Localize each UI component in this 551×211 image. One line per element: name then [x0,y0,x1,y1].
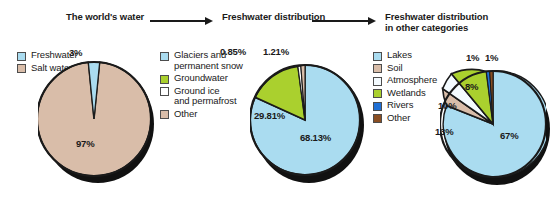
chart-title-worlds-water: The world's water [66,11,144,22]
pie-value-wetlands: 8% [465,81,478,92]
chart-title-freshwater-distribution: Freshwater distribution [222,11,325,22]
legend-item-lakes: Lakes [373,50,437,61]
pie-chart-other-categories: 1% 1% 8% 10% 13% 67% [440,68,546,180]
pie-value-glaciers: 68.13% [300,132,331,143]
pie-value-other: 1% [485,52,498,63]
legend-item-other: Other [373,113,437,124]
legend-swatch-lakes [373,52,382,61]
arrow-head [205,17,213,25]
legend-swatch-other [373,114,382,123]
pie-slices-worlds-water [38,60,150,178]
panel-freshwater-distribution: Glaciers and permanent snow Groundwater … [155,40,355,211]
legend-label-rivers: Rivers [387,100,413,111]
panel-freshwater-other-categories: Lakes Soil Atmosphere Wetlands Rivers Ot… [360,40,551,211]
legend-swatch-glaciers [160,52,169,61]
legend-item-ground-ice: Ground ice and permafrost [160,86,243,107]
pie-value-groundwater: 29.81% [254,110,285,121]
legend-swatch-wetlands [373,89,382,98]
legend-swatch-other [160,110,169,119]
arrow-shaft [312,20,370,22]
pie-value-rivers: 1% [466,52,479,63]
legend-swatch-groundwater [160,75,169,84]
legend-swatch-soil [373,64,382,73]
legend-label-other: Other [174,109,197,120]
legend-other-categories: Lakes Soil Atmosphere Wetlands Rivers Ot… [373,50,437,125]
legend-item-atmosphere: Atmosphere [373,75,437,86]
legend-swatch-ground-ice [160,87,169,96]
pie-value-salt-water: 97% [76,138,94,149]
legend-label-groundwater: Groundwater [174,73,228,84]
legend-label-ground-ice: Ground ice and permafrost [174,86,237,107]
pie-slices-other-categories [440,68,546,180]
pie-value-freshwater: 3% [69,47,82,58]
legend-item-groundwater: Groundwater [160,73,243,84]
pie-chart-worlds-water: 3% 97% [38,60,150,178]
figure-root: The world's water Freshwater distributio… [0,0,551,211]
legend-label-atmosphere: Atmosphere [387,75,437,86]
arrow-head [368,17,376,25]
legend-item-soil: Soil [373,63,437,74]
legend-item-other: Other [160,109,243,120]
pie-value-lakes: 67% [500,130,518,141]
flow-arrow-2 [312,16,378,25]
titles-and-arrows: The world's water Freshwater distributio… [0,0,551,40]
pie-value-atmosphere: 10% [438,100,456,111]
legend-item-wetlands: Wetlands [373,88,437,99]
legend-label-lakes: Lakes [387,50,412,61]
panel-worlds-water: Freshwater Salt water 3% 97% [0,40,160,211]
legend-swatch-rivers [373,102,382,111]
chart-title-freshwater-other-categories: Freshwater distribution in other categor… [385,11,488,33]
flow-arrow-1 [150,16,215,25]
legend-swatch-salt-water [17,64,26,73]
pie-chart-freshwater-distribution: 0.85% 1.21% 29.81% 68.13% [250,62,360,178]
pie-value-other: 1.21% [263,46,289,57]
legend-label-wetlands: Wetlands [387,88,426,99]
legend-swatch-atmosphere [373,77,382,86]
legend-label-soil: Soil [387,63,402,74]
pie-value-ground-ice: 0.85% [220,46,246,57]
arrow-shaft [150,20,207,22]
legend-freshwater-distribution: Glaciers and permanent snow Groundwater … [160,50,243,121]
legend-item-rivers: Rivers [373,100,437,111]
legend-swatch-freshwater [17,52,26,61]
pie-value-soil: 13% [435,126,453,137]
legend-label-other: Other [387,113,410,124]
